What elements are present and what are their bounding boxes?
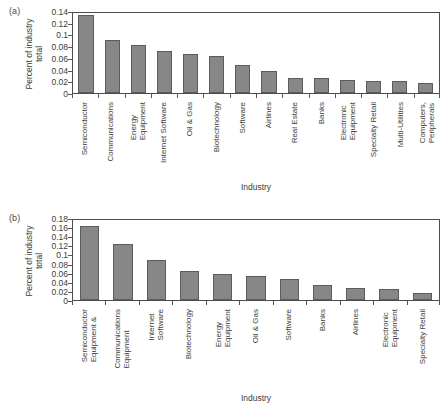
y-tick-mark bbox=[68, 255, 72, 256]
bar bbox=[157, 51, 172, 93]
y-tick-label: 0.16 bbox=[51, 224, 68, 233]
x-category-slot: EnergyEquipment bbox=[125, 102, 151, 176]
x-axis-tickmarks-a bbox=[72, 94, 440, 98]
y-tick-mark bbox=[68, 47, 72, 48]
bar bbox=[80, 226, 99, 300]
x-tick-mark bbox=[139, 301, 172, 305]
bar bbox=[366, 81, 381, 93]
x-category-label-line: Semiconductor bbox=[81, 102, 90, 155]
x-category-label-line: Real Estate bbox=[291, 102, 300, 143]
x-category-label: Communications bbox=[107, 102, 116, 162]
bar bbox=[131, 45, 146, 93]
y-tick-label: 0.06 bbox=[51, 269, 68, 278]
bar-series-b bbox=[73, 220, 439, 300]
x-tick-mark bbox=[151, 94, 177, 98]
x-tick-mark bbox=[72, 301, 105, 305]
x-category-slot: Real Estate bbox=[282, 102, 308, 176]
bar-slot bbox=[125, 13, 151, 93]
x-tick-mark bbox=[273, 301, 306, 305]
x-category-label: EnergyEquipment bbox=[213, 309, 231, 347]
y-tick-mark bbox=[68, 82, 72, 83]
x-category-label: Banks bbox=[317, 102, 326, 124]
x-category-label-line: Biotechnology bbox=[184, 309, 193, 359]
x-category-slot: CommunicationsEquipment bbox=[105, 309, 138, 387]
bar bbox=[235, 65, 250, 93]
bar bbox=[340, 80, 355, 93]
bar-slot bbox=[230, 13, 256, 93]
x-category-slot: Multi-Utilities bbox=[387, 102, 413, 176]
bar bbox=[346, 288, 365, 300]
x-category-slot: Oil & Gas bbox=[177, 102, 203, 176]
y-tick-mark bbox=[68, 219, 72, 220]
bar bbox=[213, 274, 232, 300]
x-category-label-line: Oil & Gas bbox=[186, 102, 195, 136]
y-tick-mark bbox=[68, 237, 72, 238]
bar-slot bbox=[99, 13, 125, 93]
x-category-label-line: Communications bbox=[113, 309, 122, 369]
x-tick-mark bbox=[373, 301, 406, 305]
x-tick-mark bbox=[306, 301, 339, 305]
y-tick-label: 0.04 bbox=[51, 278, 68, 287]
x-tick-mark bbox=[105, 301, 138, 305]
y-tick-mark bbox=[68, 59, 72, 60]
x-category-label: Banks bbox=[318, 309, 327, 331]
bar bbox=[379, 289, 398, 300]
x-category-slot: InternetSoftware bbox=[139, 309, 172, 387]
chart-panel-a: (a) Percent of industry total 00.020.040… bbox=[0, 0, 446, 207]
plot-area-a bbox=[72, 12, 440, 94]
bar bbox=[105, 40, 120, 93]
bar-slot bbox=[206, 220, 239, 300]
bar bbox=[113, 244, 132, 300]
x-category-slot: Software bbox=[273, 309, 306, 387]
x-tick-mark bbox=[340, 301, 373, 305]
x-category-label-line: Specialty Retail bbox=[370, 102, 379, 157]
bar-slot bbox=[178, 13, 204, 93]
x-tick-mark bbox=[335, 94, 361, 98]
x-category-label-line: Equipment bbox=[122, 309, 131, 369]
x-axis-tickmarks-b bbox=[72, 301, 440, 305]
x-category-label-line: Energy bbox=[129, 102, 138, 140]
x-category-label-line: Energy bbox=[213, 309, 222, 347]
y-tick-label: 0.06 bbox=[51, 54, 68, 63]
x-tick-mark bbox=[414, 94, 440, 98]
x-category-slot: Banks bbox=[306, 309, 339, 387]
x-category-label: Semiconductor bbox=[81, 102, 90, 155]
bar-slot bbox=[372, 220, 405, 300]
y-tick-mark bbox=[68, 228, 72, 229]
x-category-slot: Internet Software bbox=[151, 102, 177, 176]
x-category-label-line: Banks bbox=[317, 102, 326, 124]
x-tick-mark bbox=[230, 94, 256, 98]
x-category-label-line: Communications bbox=[107, 102, 116, 162]
chart-panel-b: (b) Percent of industry total 00.020.040… bbox=[0, 207, 446, 414]
x-category-label: Oil & Gas bbox=[251, 309, 260, 343]
x-axis-title-b: Industry bbox=[72, 393, 440, 403]
x-category-label: Multi-Utilities bbox=[396, 102, 405, 147]
x-category-slot: Airlines bbox=[340, 309, 373, 387]
bar-slot bbox=[306, 220, 339, 300]
y-axis-ticks-b: 00.020.040.060.080.10.120.140.160.18 bbox=[34, 219, 68, 301]
x-category-label-line: Biotechnology bbox=[212, 102, 221, 152]
x-category-label-line: Banks bbox=[318, 309, 327, 331]
x-category-label-line: Semiconductor bbox=[80, 309, 89, 362]
y-axis-ticks-a: 00.020.040.060.080.10.120.14 bbox=[34, 12, 68, 94]
bar bbox=[261, 71, 276, 93]
y-tick-label: 0.18 bbox=[51, 215, 68, 224]
x-category-label: Computers,Peripherals bbox=[418, 102, 436, 143]
bar-slot bbox=[282, 13, 308, 93]
x-tick-mark bbox=[387, 94, 413, 98]
bar-slot bbox=[73, 13, 99, 93]
x-category-label-line: Computers, bbox=[418, 102, 427, 143]
x-tick-mark bbox=[98, 94, 124, 98]
x-tick-mark bbox=[203, 94, 229, 98]
x-category-label: ElectronicEquipment bbox=[381, 309, 399, 347]
bar-slot bbox=[406, 220, 439, 300]
bar bbox=[413, 293, 432, 300]
y-tick-label: 0.04 bbox=[51, 66, 68, 75]
y-tick-label: 0.08 bbox=[51, 260, 68, 269]
x-axis-category-labels-b: SemiconductorEquipment &CommunicationsEq… bbox=[72, 309, 440, 387]
x-tick-mark bbox=[72, 94, 98, 98]
y-tick-label: 0.12 bbox=[51, 19, 68, 28]
x-category-label-line: Airlines bbox=[265, 102, 274, 128]
x-category-slot: Banks bbox=[309, 102, 335, 176]
bar-slot bbox=[140, 220, 173, 300]
